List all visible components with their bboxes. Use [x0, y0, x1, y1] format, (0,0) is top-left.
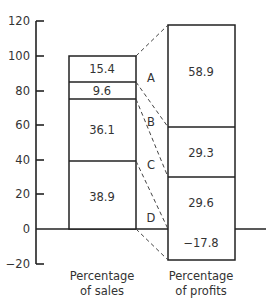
connector-label-c: C [147, 158, 155, 172]
connector-label-b: B [147, 115, 155, 129]
y-tick-label: 0 [23, 222, 30, 236]
sales-segment-c-value: 36.1 [89, 123, 115, 137]
chart: 120 100 80 60 40 20 0 −20 15.4 9.6 36.1 … [0, 0, 275, 306]
connector-labels: A B C D [147, 71, 156, 225]
sales-segment-d-value: 38.9 [89, 190, 115, 204]
category-labels: Percentage of sales Percentage of profit… [70, 269, 234, 298]
y-tick-label: −20 [6, 257, 30, 271]
profits-label-line1: Percentage [169, 269, 234, 283]
y-tick-label: 60 [15, 118, 30, 132]
profits-label-line2: of profits [175, 284, 226, 298]
y-tick-label: 80 [15, 84, 30, 98]
sales-segment-b-value: 9.6 [93, 84, 111, 98]
profits-segment-c-value: 29.6 [188, 196, 214, 210]
y-tick-label: 100 [8, 49, 30, 63]
profits-segment-a-value: 58.9 [188, 65, 214, 79]
connector-label-d: D [147, 211, 156, 225]
profits-segment-b-value: 29.3 [188, 146, 214, 160]
y-axis [36, 21, 44, 264]
y-tick-label: 20 [15, 187, 30, 201]
connector-label-a: A [147, 71, 155, 85]
profits-bar [168, 25, 235, 260]
y-tick-label: 120 [8, 14, 30, 28]
sales-segment-a-value: 15.4 [89, 62, 115, 76]
profits-segment-d-value: −17.8 [183, 236, 218, 250]
sales-label-line2: of sales [80, 284, 124, 298]
y-tick-labels: 120 100 80 60 40 20 0 −20 [6, 14, 30, 271]
y-tick-label: 40 [15, 153, 30, 167]
sales-label-line1: Percentage [70, 269, 135, 283]
